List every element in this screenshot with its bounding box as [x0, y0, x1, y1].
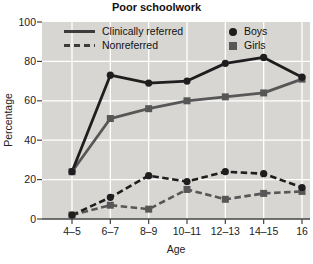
- data-point-clin_boys: [222, 60, 229, 67]
- x-axis-title: Age: [42, 243, 310, 255]
- data-point-clin_boys: [298, 74, 305, 81]
- x-tick-label: 16: [282, 225, 313, 238]
- data-point-clin_girls: [222, 93, 229, 100]
- legend-label-boys: Boys: [244, 25, 267, 38]
- x-tick-label: 12–13: [205, 225, 245, 238]
- x-tick-label: 6–7: [90, 225, 130, 238]
- legend-label-girls: Girls: [244, 39, 266, 52]
- data-point-clin_boys: [107, 72, 114, 79]
- legend-entry-boys: Boys: [229, 25, 267, 38]
- data-point-nonref_boys: [107, 194, 114, 201]
- data-point-nonref_boys: [260, 170, 267, 177]
- solid-line-swatch: [64, 30, 95, 33]
- legend-label-nonreferred: Nonreferred: [102, 39, 158, 52]
- data-point-nonref_girls: [107, 202, 114, 209]
- y-tick-label: 40: [5, 134, 36, 147]
- data-point-clin_girls: [145, 105, 152, 112]
- legend-entry-clinically-referred: Clinically referred: [64, 25, 183, 38]
- data-point-clin_boys: [68, 168, 75, 175]
- x-tick-label: 10–11: [167, 225, 207, 238]
- data-point-nonref_girls: [222, 196, 229, 203]
- data-point-nonref_boys: [183, 178, 190, 185]
- data-point-nonref_girls: [260, 190, 267, 197]
- data-point-clin_girls: [107, 115, 114, 122]
- y-tick-label: 20: [5, 173, 36, 186]
- y-tick-label: 60: [5, 94, 36, 107]
- data-point-nonref_boys: [145, 172, 152, 179]
- legend-label-clinically-referred: Clinically referred: [102, 25, 183, 38]
- data-point-clin_girls: [184, 97, 191, 104]
- legend-entry-girls: Girls: [229, 39, 266, 52]
- chart-figure: Poor schoolwork Percentage Clinically re…: [0, 0, 313, 264]
- data-point-clin_girls: [260, 89, 267, 96]
- x-tick-label: 8–9: [129, 225, 169, 238]
- data-point-nonref_girls: [145, 206, 152, 213]
- legend-entry-nonreferred: Nonreferred: [64, 39, 158, 52]
- y-tick-label: 100: [5, 16, 36, 29]
- girls-square-marker-icon: [229, 42, 237, 50]
- dashed-line-swatch: [64, 44, 95, 47]
- data-point-nonref_girls: [184, 186, 191, 193]
- data-point-nonref_boys: [298, 184, 305, 191]
- y-tick-label: 0: [5, 213, 36, 226]
- boys-circle-marker-icon: [229, 28, 237, 36]
- x-tick-label: 14–15: [244, 225, 284, 238]
- data-point-nonref_boys: [68, 211, 75, 218]
- data-point-clin_boys: [260, 54, 267, 61]
- data-point-nonref_boys: [222, 168, 229, 175]
- data-point-clin_boys: [145, 79, 152, 86]
- data-point-clin_boys: [183, 78, 190, 85]
- x-tick-label: 4–5: [52, 225, 92, 238]
- y-tick-label: 80: [5, 55, 36, 68]
